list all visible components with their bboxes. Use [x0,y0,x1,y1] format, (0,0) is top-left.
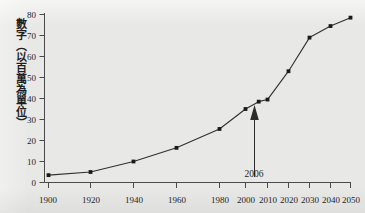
x-tick-label-1940: 1940 [125,195,144,205]
annotation-arrow-2006 [250,105,259,177]
x-tick-label-2020: 2020 [280,195,299,205]
data-point-markers [47,16,353,177]
data-point-1940 [132,160,136,164]
annotation-label-2006: 2006 [245,169,264,179]
y-tick-label-50: 50 [27,73,37,83]
y-tick-label-30: 30 [27,115,37,125]
x-tick-label-1980: 1980 [211,195,230,205]
chart-screenshot: 數字（以百萬為單位） 0 10 20 30 40 50 60 70 80 [0,0,365,213]
y-tick-label-60: 60 [27,52,37,62]
x-tick-label-2000: 2000 [237,195,256,205]
y-tick-label-0: 0 [32,178,37,188]
y-tick-label-70: 70 [27,31,37,41]
data-point-1960 [175,146,179,150]
y-tick-label-40: 40 [27,94,37,104]
data-point-2006 [257,100,261,104]
data-point-2020 [287,69,291,73]
y-tick-label-80: 80 [27,10,37,20]
x-tick-label-2050: 2050 [342,195,361,205]
data-point-1900 [47,173,51,177]
x-tick-label-2040: 2040 [322,195,341,205]
data-point-1920 [89,170,93,174]
x-axis-ticks [49,183,351,189]
line-chart-plot: 0 10 20 30 40 50 60 70 80 1900 1920 1940… [0,0,365,213]
y-axis-ticks [40,15,45,183]
up-arrow-icon [250,105,259,120]
data-series-line [49,18,351,176]
data-point-1980 [218,127,222,131]
x-tick-label-1900: 1900 [39,195,58,205]
data-point-2050 [349,16,353,20]
y-tick-label-20: 20 [27,136,37,146]
x-tick-label-1920: 1920 [82,195,101,205]
x-tick-label-1960: 1960 [168,195,187,205]
y-tick-label-10: 10 [27,157,37,167]
data-point-2010 [266,98,270,102]
data-point-2000 [244,107,248,111]
data-point-2030 [308,36,312,40]
data-point-2040 [329,24,333,28]
x-tick-label-2030: 2030 [301,195,320,205]
x-tick-label-2010: 2010 [259,195,278,205]
